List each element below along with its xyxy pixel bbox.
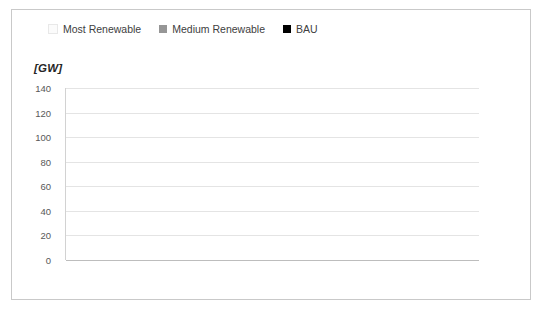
chart-legend: Most Renewable Medium Renewable BAU (12, 24, 530, 35)
y-axis-tick-label: 0 (46, 255, 51, 266)
gridline (66, 162, 479, 163)
y-axis-unit-label: [GW] (34, 62, 62, 74)
chart-frame: Most Renewable Medium Renewable BAU [GW]… (11, 9, 531, 300)
plot-area (65, 88, 479, 260)
legend-swatch-icon-most-renewable (48, 24, 58, 34)
y-axis-tick-label: 60 (40, 181, 51, 192)
x-axis-baseline (66, 260, 479, 261)
gridline (66, 113, 479, 114)
y-axis-tick-label: 80 (40, 156, 51, 167)
legend-swatch-icon-medium-renewable (159, 25, 167, 33)
y-axis-tick-label: 120 (35, 107, 51, 118)
gridline (66, 211, 479, 212)
legend-label-medium-renewable: Medium Renewable (172, 24, 265, 35)
y-axis-tick-label: 40 (40, 205, 51, 216)
legend-label-most-renewable: Most Renewable (63, 24, 141, 35)
y-axis-tick-label: 100 (35, 132, 51, 143)
legend-swatch-icon-bau (283, 25, 291, 33)
y-axis: 140120100806040200 (20, 88, 56, 260)
chart-screenshot: Most Renewable Medium Renewable BAU [GW]… (0, 0, 543, 310)
gridline (66, 88, 479, 89)
y-axis-tick-label: 20 (40, 230, 51, 241)
gridline (66, 186, 479, 187)
bar-groups (66, 88, 479, 260)
gridline (66, 235, 479, 236)
legend-label-bau: BAU (296, 24, 318, 35)
gridline (66, 137, 479, 138)
legend-item-medium-renewable[interactable]: Medium Renewable (159, 24, 265, 35)
plot-wrapper: 140120100806040200 (20, 88, 524, 260)
legend-item-most-renewable[interactable]: Most Renewable (48, 24, 141, 35)
y-axis-tick-label: 140 (35, 83, 51, 94)
legend-item-bau[interactable]: BAU (283, 24, 318, 35)
